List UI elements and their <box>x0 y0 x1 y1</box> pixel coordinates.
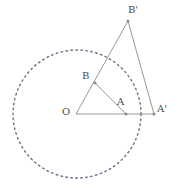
vertex-marker-Ap <box>153 113 156 116</box>
vertex-marker-A <box>125 113 128 116</box>
vertex-marker-B <box>94 82 97 85</box>
geometry-figure: O A A' B B' <box>0 0 177 190</box>
point-label-O: O <box>62 107 70 117</box>
point-label-B: B <box>82 71 89 81</box>
point-label-B-prime: B' <box>128 5 138 15</box>
segment-Bp-Ap <box>128 21 154 114</box>
vertex-marker-Bp <box>127 20 130 23</box>
point-label-A-prime: A' <box>157 104 167 114</box>
figure-canvas <box>0 0 177 190</box>
point-label-A: A <box>117 97 124 107</box>
